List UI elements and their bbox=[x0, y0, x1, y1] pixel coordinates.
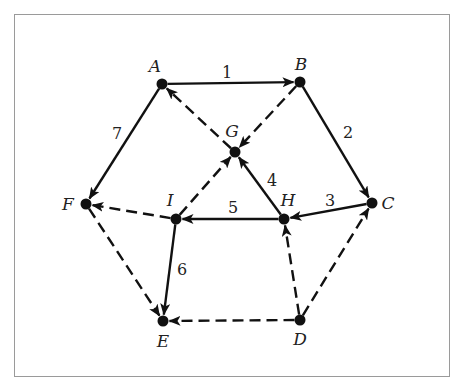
node-label-I: I bbox=[166, 190, 174, 210]
edge-weight-label: 1 bbox=[222, 63, 232, 82]
node-H bbox=[279, 214, 290, 225]
labels-group: 1234567ABCDEFGHI bbox=[61, 54, 394, 351]
edge-weight-label: 4 bbox=[267, 171, 277, 190]
node-label-A: A bbox=[147, 56, 161, 76]
node-E bbox=[158, 316, 169, 327]
edge-F-E bbox=[89, 209, 159, 316]
edge-I-F bbox=[92, 205, 170, 218]
edge-weight-label: 6 bbox=[177, 260, 187, 279]
node-G bbox=[230, 147, 241, 158]
node-A bbox=[157, 79, 168, 90]
edge-G-A bbox=[167, 88, 231, 148]
node-C bbox=[367, 198, 378, 209]
edge-B-C bbox=[303, 87, 369, 198]
edge-A-B bbox=[167, 82, 293, 84]
node-label-B: B bbox=[294, 54, 308, 74]
node-label-C: C bbox=[381, 193, 394, 213]
edge-I-E bbox=[164, 224, 175, 314]
edge-D-H bbox=[285, 225, 299, 314]
node-label-D: D bbox=[292, 329, 307, 349]
node-D bbox=[295, 315, 306, 326]
directed-graph: 1234567ABCDEFGHI bbox=[0, 0, 463, 392]
edge-weight-label: 7 bbox=[112, 124, 122, 143]
node-I bbox=[171, 214, 182, 225]
edge-D-E bbox=[169, 320, 294, 321]
edge-weight-label: 2 bbox=[343, 123, 353, 142]
edge-B-G bbox=[239, 86, 296, 147]
node-label-G: G bbox=[225, 121, 239, 141]
node-B bbox=[295, 77, 306, 88]
edge-I-G bbox=[180, 157, 231, 215]
node-label-E: E bbox=[156, 331, 170, 351]
node-F bbox=[81, 199, 92, 210]
node-label-F: F bbox=[61, 194, 75, 214]
edge-weight-label: 5 bbox=[228, 198, 238, 217]
edge-weight-label: 3 bbox=[325, 191, 335, 210]
edge-A-F bbox=[89, 89, 159, 199]
edge-D-C bbox=[303, 209, 369, 316]
node-label-H: H bbox=[280, 190, 297, 210]
